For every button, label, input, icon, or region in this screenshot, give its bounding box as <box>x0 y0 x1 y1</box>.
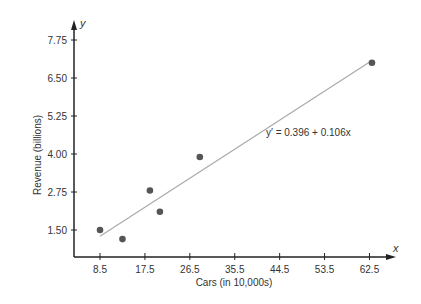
x-axis-label: Cars (in 10,000s) <box>196 277 273 288</box>
x-axis-arrow-icon <box>386 254 396 260</box>
data-point <box>369 60 376 67</box>
y-axis-label: Revenue (billions) <box>32 115 43 195</box>
data-point <box>197 154 204 161</box>
scatter-chart: 1.502.754.005.256.507.75 8.517.526.535.5… <box>0 0 421 304</box>
y-tick-label: 2.75 <box>48 187 68 198</box>
y-axis-var: y <box>79 17 87 29</box>
regression-equation: y′ = 0.396 + 0.106x <box>266 127 351 138</box>
y-tick-label: 7.75 <box>48 35 68 46</box>
y-tick-label: 5.25 <box>48 111 68 122</box>
data-point <box>97 227 104 234</box>
x-tick-label: 35.5 <box>225 264 245 275</box>
y-axis-ticks: 1.502.754.005.256.507.75 <box>48 35 77 236</box>
x-tick-label: 17.5 <box>135 264 155 275</box>
x-tick-label: 8.5 <box>93 264 107 275</box>
regression-line <box>100 61 372 237</box>
data-points <box>97 60 376 243</box>
y-tick-label: 4.00 <box>48 149 68 160</box>
data-point <box>157 208 164 215</box>
x-tick-label: 26.5 <box>180 264 200 275</box>
x-axis-var: x <box>392 242 399 254</box>
x-tick-label: 44.5 <box>270 264 290 275</box>
x-tick-label: 62.5 <box>360 264 380 275</box>
y-tick-label: 1.50 <box>48 225 68 236</box>
y-axis-arrow-icon <box>71 20 77 30</box>
x-tick-label: 53.5 <box>315 264 335 275</box>
data-point <box>119 236 126 243</box>
y-tick-label: 6.50 <box>48 73 68 84</box>
data-point <box>147 187 154 194</box>
